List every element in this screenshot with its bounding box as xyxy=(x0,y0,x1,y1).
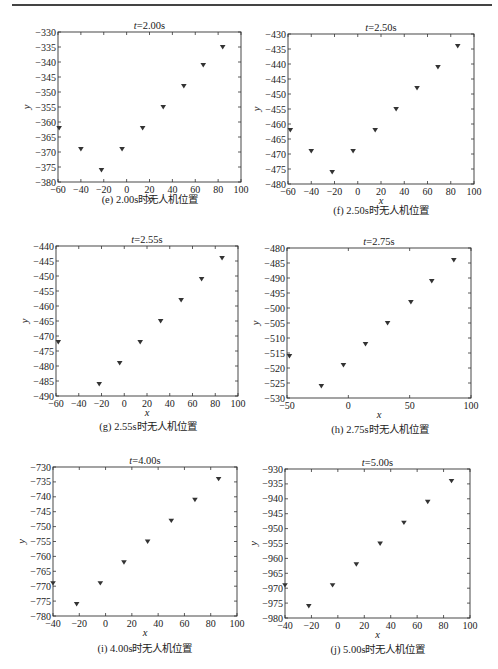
plot-frame xyxy=(285,469,470,618)
y-tick-label: −975 xyxy=(262,598,283,609)
drone-position-marker xyxy=(377,542,383,546)
drone-position-marker xyxy=(330,583,336,587)
y-tick-label: −940 xyxy=(262,493,283,504)
x-tick-label: −40 xyxy=(277,620,293,631)
y-tick-label: −960 xyxy=(262,553,283,564)
drone-position-marker xyxy=(449,479,455,483)
y-tick-label: −950 xyxy=(262,523,283,534)
x-tick-label: 100 xyxy=(463,620,478,631)
y-tick-label: −970 xyxy=(262,583,283,594)
drone-position-marker xyxy=(306,604,312,608)
x-tick-label: 40 xyxy=(386,620,396,631)
y-tick-label: −965 xyxy=(262,568,283,579)
y-tick-label: −935 xyxy=(262,478,283,489)
plot-title: t=5.00s xyxy=(362,457,393,468)
y-axis-label: y xyxy=(248,541,259,547)
x-tick-label: −20 xyxy=(304,620,320,631)
y-tick-label: −930 xyxy=(262,464,283,475)
x-tick-label: 0 xyxy=(335,620,340,631)
y-tick-label: −945 xyxy=(262,508,283,519)
x-tick-label: 80 xyxy=(439,620,449,631)
x-axis-label: x xyxy=(374,629,380,640)
drone-position-marker xyxy=(401,521,407,525)
caption-j: (j) 5.00s时无人机位置 xyxy=(331,641,426,656)
x-tick-label: 20 xyxy=(359,620,369,631)
x-tick-label: 60 xyxy=(412,620,422,631)
drone-position-marker xyxy=(282,583,288,587)
drone-position-marker xyxy=(425,500,431,504)
y-tick-label: −955 xyxy=(262,538,283,549)
drone-position-marker xyxy=(354,562,360,566)
scatter-plot-j: −980−975−970−965−960−955−950−945−940−935… xyxy=(0,0,498,669)
